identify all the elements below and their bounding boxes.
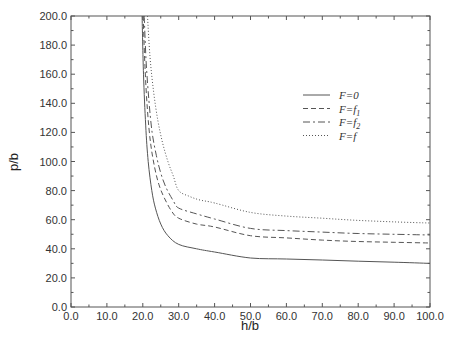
x-tick-label: 100.0 (416, 310, 444, 322)
x-tick-label: 30.0 (168, 310, 189, 322)
y-tick-label: 140.0 (39, 97, 67, 109)
x-tick-label: 80.0 (347, 310, 368, 322)
y-tick-label: 100.0 (39, 156, 67, 168)
y-tick-label: 160.0 (39, 68, 67, 80)
y-axis-title: p/b (6, 153, 21, 171)
legend-label: F=0 (338, 89, 359, 101)
y-tick-label: 0.0 (52, 301, 67, 313)
legend-label: F=f (338, 130, 358, 142)
y-tick-label: 120.0 (39, 126, 67, 138)
y-tick-label: 200.0 (39, 10, 67, 22)
x-tick-label: 10.0 (96, 310, 117, 322)
x-tick-label: 60.0 (276, 310, 297, 322)
y-tick-label: 40.0 (46, 243, 67, 255)
chart-background (0, 0, 458, 342)
line-chart: 0.010.020.030.040.050.060.070.080.090.01… (0, 0, 458, 342)
x-tick-label: 90.0 (383, 310, 404, 322)
y-tick-label: 80.0 (46, 185, 67, 197)
x-axis-title: h/b (241, 318, 259, 333)
x-tick-label: 70.0 (312, 310, 333, 322)
y-tick-label: 20.0 (46, 272, 67, 284)
x-tick-label: 40.0 (204, 310, 225, 322)
y-tick-label: 60.0 (46, 214, 67, 226)
x-tick-label: 20.0 (132, 310, 153, 322)
y-tick-label: 180.0 (39, 39, 67, 51)
